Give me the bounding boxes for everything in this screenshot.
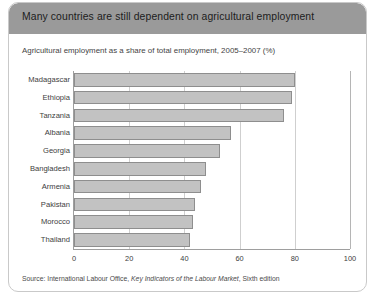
figure-source: Source: International Labour Office, Key…: [22, 275, 280, 282]
category-label: Morocco: [41, 215, 70, 229]
bar-row: Albania: [74, 124, 350, 142]
figure-card: Many countries are still dependent on ag…: [8, 2, 367, 292]
category-label: Thailand: [41, 233, 70, 247]
bar-madagascar: [74, 73, 295, 87]
category-label: Tanzania: [40, 109, 70, 123]
bar-row: Georgia: [74, 142, 350, 160]
x-tick-label-20: 20: [125, 254, 133, 263]
chart-bars: MadagascarEthiopiaTanzaniaAlbaniaGeorgia…: [74, 71, 350, 249]
bar-row: Tanzania: [74, 107, 350, 125]
bar-bangladesh: [74, 162, 206, 176]
x-tick-label-100: 100: [344, 254, 356, 263]
bar-row: Bangladesh: [74, 160, 350, 178]
x-tick-label-0: 0: [72, 254, 76, 263]
bar-ethiopia: [74, 91, 292, 105]
category-label: Madagascar: [28, 73, 70, 87]
bar-morocco: [74, 215, 193, 229]
bar-row: Ethiopia: [74, 89, 350, 107]
x-tick-label-40: 40: [180, 254, 188, 263]
gridline-100: [350, 71, 351, 249]
source-title: Key Indicators of the Labour Market: [131, 275, 239, 282]
chart-plot-wrapper: MadagascarEthiopiaTanzaniaAlbaniaGeorgia…: [9, 3, 366, 291]
source-suffix: , Sixth edition: [239, 275, 280, 282]
chart-plot-area: MadagascarEthiopiaTanzaniaAlbaniaGeorgia…: [73, 71, 350, 250]
x-tick-label-80: 80: [291, 254, 299, 263]
bar-armenia: [74, 180, 201, 194]
x-tick-label-60: 60: [235, 254, 243, 263]
bar-thailand: [74, 233, 190, 247]
bar-albania: [74, 126, 231, 140]
category-label: Albania: [45, 126, 70, 140]
category-label: Armenia: [42, 180, 70, 194]
category-label: Ethiopia: [43, 91, 70, 105]
bar-tanzania: [74, 109, 284, 123]
bar-row: Armenia: [74, 178, 350, 196]
bar-pakistan: [74, 198, 195, 212]
category-label: Pakistan: [41, 198, 70, 212]
category-label: Georgia: [43, 144, 70, 158]
source-prefix: Source: International Labour Office,: [22, 275, 131, 282]
bar-row: Thailand: [74, 231, 350, 249]
bar-row: Madagascar: [74, 71, 350, 89]
bar-georgia: [74, 144, 220, 158]
bar-row: Morocco: [74, 213, 350, 231]
bar-row: Pakistan: [74, 196, 350, 214]
category-label: Bangladesh: [30, 162, 70, 176]
